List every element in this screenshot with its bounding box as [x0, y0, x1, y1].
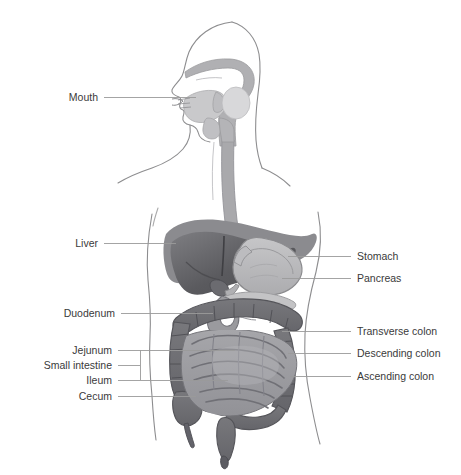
jaw-neck-outline	[118, 125, 190, 183]
mouth-opening	[172, 99, 183, 106]
label-pancreas: Pancreas	[357, 273, 401, 284]
label-ascending-colon: Ascending colon	[357, 371, 434, 382]
anal-canal	[221, 456, 229, 469]
chest-hint-left	[153, 208, 158, 226]
label-descending-colon: Descending colon	[357, 348, 440, 359]
label-jejunum: Jejunum	[0, 345, 112, 356]
torso-left-outline	[147, 214, 156, 440]
head-internals-group	[172, 59, 254, 146]
right-shoulder-outline	[262, 168, 290, 186]
label-duodenum: Duodenum	[0, 308, 115, 319]
mesentery-shading	[212, 346, 279, 385]
face-shading	[196, 78, 222, 80]
label-cecum: Cecum	[0, 391, 112, 402]
label-liver: Liver	[0, 238, 98, 249]
trachea-hint	[212, 142, 214, 200]
epiglottis	[203, 118, 220, 139]
salivary-gland	[222, 87, 250, 119]
digestive-system-diagram: MouthLiverDuodenumJejunumSmall intestine…	[0, 0, 461, 475]
label-stomach: Stomach	[357, 251, 398, 262]
appendix	[184, 423, 194, 448]
label-mouth: Mouth	[0, 92, 98, 103]
rectum	[217, 417, 236, 461]
label-small-intestine: Small intestine	[0, 360, 112, 371]
label-ileum: Ileum	[0, 375, 112, 386]
label-transverse-colon: Transverse colon	[357, 326, 437, 337]
